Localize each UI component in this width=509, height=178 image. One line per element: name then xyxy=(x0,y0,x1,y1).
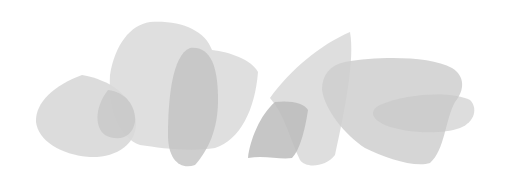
blob-illustration xyxy=(0,0,509,178)
abstract-blob-canvas xyxy=(0,0,509,178)
